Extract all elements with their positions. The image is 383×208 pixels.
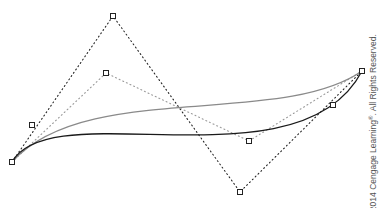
control-handles [10,14,365,195]
end-point-handle-icon [360,69,365,74]
curve-trough-point-handle-icon [247,139,252,144]
primary-bezier-curve [12,71,362,162]
right-tangent-point-handle-icon [331,103,336,108]
curve-peak-point-handle-icon [104,71,109,76]
secondary-curve [12,71,362,162]
left-tangent-point-handle-icon [30,123,35,128]
copyright-text: © 2014 Cengage Learning [368,120,378,208]
subdivided-polygon [12,71,362,162]
start-point-handle-icon [10,160,15,165]
top-control-point-handle-icon [111,14,116,19]
copyright-suffix: . All Rights Reserved. [368,34,378,115]
registered-mark: ® [368,116,374,120]
bottom-control-point-handle-icon [238,190,243,195]
bezier-diagram [0,0,383,208]
copyright-notice: © 2014 Cengage Learning®. All Rights Res… [368,34,379,208]
control-polygon [12,16,362,192]
